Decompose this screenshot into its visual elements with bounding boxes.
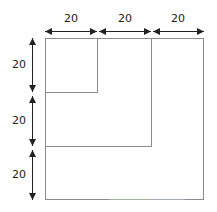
top-dim-label-3: 20	[171, 12, 185, 25]
top-dim-arrowhead-right-2	[144, 28, 151, 35]
left-dimension-group: 20 20 20	[12, 38, 36, 200]
left-dimension-segment-3: 20	[12, 150, 36, 200]
left-dim-arrowhead-top-1	[29, 38, 36, 45]
top-dim-arrowhead-left-3	[153, 28, 160, 35]
left-dim-arrowhead-bottom-1	[29, 85, 36, 92]
left-dim-label-1: 20	[12, 58, 26, 71]
top-dimension-group: 20 20 20	[45, 12, 204, 35]
top-dim-arrowhead-left-1	[45, 28, 52, 35]
top-dim-arrowhead-right-3	[197, 28, 204, 35]
top-dim-arrowhead-right-1	[90, 28, 97, 35]
nested-squares-diagram: 20 20 20 20	[0, 0, 217, 212]
top-dimension-segment-1: 20	[45, 12, 97, 35]
left-dim-arrowhead-bottom-3	[29, 193, 36, 200]
left-dim-arrowhead-top-3	[29, 150, 36, 157]
left-dim-arrowhead-top-2	[29, 96, 36, 103]
left-dimension-segment-2: 20	[12, 96, 36, 146]
left-dim-label-2: 20	[12, 114, 26, 127]
top-dim-arrowhead-left-2	[99, 28, 106, 35]
left-dim-label-3: 20	[12, 168, 26, 181]
top-dim-label-2: 20	[118, 12, 132, 25]
figure-canvas: 20 20 20 20	[0, 0, 217, 212]
left-dim-arrowhead-bottom-2	[29, 139, 36, 146]
left-dimension-segment-1: 20	[12, 38, 36, 92]
top-dimension-segment-3: 20	[153, 12, 204, 35]
outer-square	[46, 39, 204, 200]
top-dim-label-1: 20	[64, 12, 78, 25]
small-square	[46, 39, 98, 93]
top-dimension-segment-2: 20	[99, 12, 151, 35]
